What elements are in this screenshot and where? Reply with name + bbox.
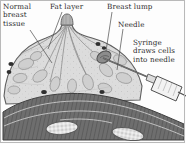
label-fat-layer: Fat layer <box>50 3 98 11</box>
label-needle: Needle <box>118 21 168 29</box>
label-breast-lump: Breast lump <box>107 3 167 11</box>
nipple <box>61 14 73 25</box>
label-syringe: Syringe draws cells into needle <box>133 39 185 64</box>
label-normal-breast-tissue: Normal breast tissue <box>3 3 47 28</box>
breast-fna-illustration: Normal breast tissue Fat layer Breast lu… <box>0 0 186 144</box>
